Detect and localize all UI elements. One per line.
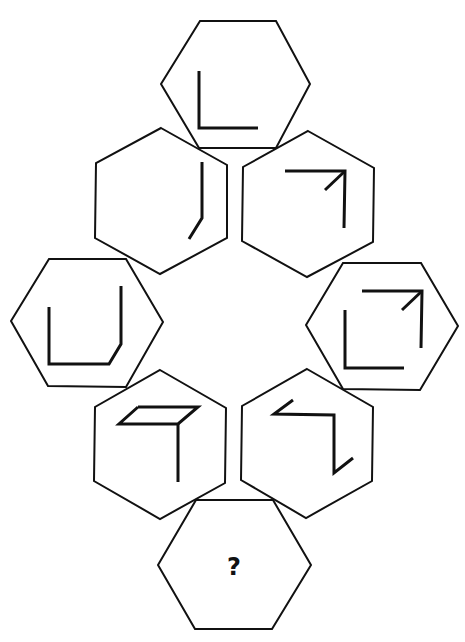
hexagon-outline — [241, 369, 373, 518]
hexagon-middle-left — [11, 259, 163, 387]
zigzag-icon — [274, 400, 353, 473]
hexagon-outline — [94, 370, 226, 519]
hexagon-lower-right — [241, 369, 373, 518]
l-shape-icon — [199, 71, 258, 128]
hexagon-middle-right — [306, 263, 458, 390]
parallelogram-icon — [119, 407, 198, 424]
bent-line-icon — [189, 162, 202, 239]
hexagon-outline — [242, 131, 374, 277]
puzzle-diagram: ? — [0, 0, 465, 642]
arrow-diagonal-icon — [402, 291, 422, 310]
hexagon-top — [161, 21, 310, 148]
arrow-diagonal-icon — [325, 171, 345, 190]
hexagon-outline — [306, 263, 458, 390]
question-mark: ? — [227, 553, 241, 581]
hexagon-upper-left — [95, 128, 227, 274]
l-shape-icon — [345, 310, 404, 368]
hexagon-outline — [11, 259, 163, 387]
hexagon-canvas — [0, 0, 465, 642]
u-shape-icon — [49, 286, 121, 364]
hexagon-lower-left — [94, 370, 226, 519]
hexagon-outline — [95, 128, 227, 274]
hexagon-upper-right — [242, 131, 374, 277]
